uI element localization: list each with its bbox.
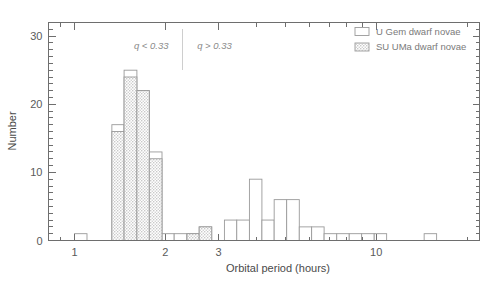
bars-su-uma [112,77,212,241]
legend-swatch [355,28,369,36]
legend-swatch [355,43,369,51]
histogram-bar [362,234,375,241]
y-axis-tick-labels: 0102030 [30,30,42,246]
histogram-bar [112,132,124,241]
y-tick-label: 0 [36,235,42,247]
y-tick-label: 20 [30,98,42,110]
figure-histogram-orbital-periods: 0102030 12310 Number Orbital period (hou… [0,0,486,284]
histogram-bar [312,227,324,241]
y-tick-label: 10 [30,166,42,178]
y-axis-title: Number [6,111,18,150]
annotation-label: q < 0.33 [134,40,169,51]
legend-label: SU UMa dwarf novae [376,41,466,52]
histogram-bar [124,77,137,241]
histogram-bar [149,159,162,241]
histogram-bar [237,220,250,240]
x-axis-title: Orbital period (hours) [226,262,330,274]
legend: U Gem dwarf novaeSU UMa dwarf novae [355,26,466,53]
histogram-bar [324,234,337,241]
histogram-svg: 0102030 12310 Number Orbital period (hou… [0,0,486,284]
histogram-bar [199,227,212,241]
x-axis-tick-labels: 12310 [71,246,382,258]
histogram-bar [424,234,436,241]
x-tick-label: 10 [370,246,382,258]
histogram-bar [287,200,300,241]
y-axis-ticks-right [473,29,480,240]
histogram-bar [162,234,174,241]
q-ratio-annotations: q < 0.33q > 0.33 [134,29,233,70]
histogram-bar [187,234,199,241]
histogram-bar [137,91,149,241]
histogram-bar [174,234,187,241]
x-tick-label: 1 [71,246,77,258]
histogram-bar [75,234,87,241]
x-tick-label: 3 [215,246,221,258]
histogram-bar [274,200,287,241]
histogram-bar [349,234,361,241]
histogram-bar [262,220,274,240]
x-tick-label: 2 [162,246,168,258]
legend-label: U Gem dwarf novae [376,26,460,37]
annotation-label: q > 0.33 [197,40,232,51]
histogram-bar [249,179,261,240]
histogram-bar [224,220,236,240]
y-tick-label: 30 [30,30,42,42]
histogram-bar [299,227,311,241]
y-axis-ticks [49,29,56,240]
